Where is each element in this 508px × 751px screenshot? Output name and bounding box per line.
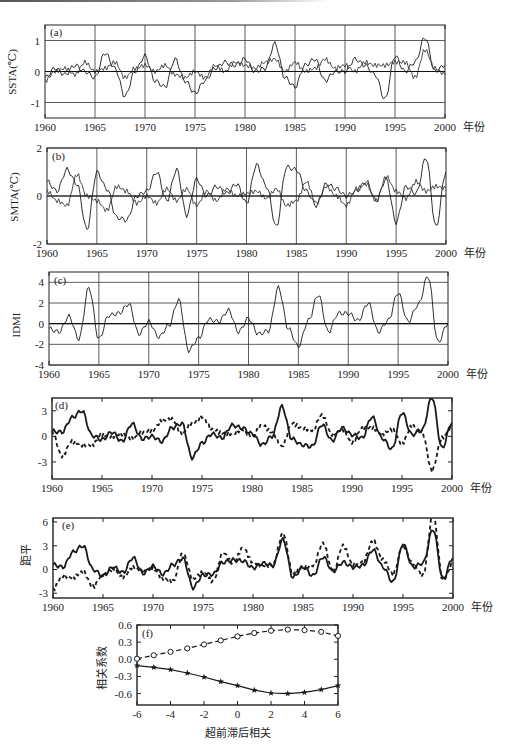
x-tick-label: 1995: [385, 247, 408, 259]
y-axis-title: IDMI: [10, 312, 22, 337]
y-tick-label: 2: [39, 297, 45, 309]
y-tick-label: -3: [39, 587, 49, 599]
x-tick-label: 1975: [191, 482, 214, 494]
x-tick-label: 1960: [34, 121, 57, 133]
circle-marker-icon: [134, 656, 139, 661]
x-tick-label: 1970: [134, 121, 157, 133]
x-tick-label: 1975: [186, 247, 209, 259]
x-tick-label: 1965: [92, 601, 115, 613]
panel-label: (b): [52, 150, 65, 163]
x-tick-label: 1990: [337, 368, 360, 380]
y-tick-label: 3: [43, 540, 49, 552]
x-tick-label: 1965: [88, 368, 111, 380]
chart-panel-a: 19601965197019751980198519901995200010-1…: [6, 25, 485, 134]
y-tick-label: 1: [35, 35, 41, 47]
x-tick-label: 1965: [84, 121, 107, 133]
chart-panel-c: 196019651970197519801985199019952000420-…: [10, 272, 488, 381]
x-tick-label: 2000: [441, 482, 464, 494]
circle-marker-icon: [185, 646, 190, 651]
circle-marker-icon: [201, 642, 206, 647]
x-tick-label: 1970: [138, 368, 161, 380]
x-tick-label: 1980: [238, 368, 261, 380]
circle-marker-icon: [252, 630, 257, 635]
y-tick-label: -1: [31, 97, 40, 109]
x-tick-label: 1990: [335, 247, 358, 259]
x-tick-label: 6: [335, 708, 341, 720]
y-tick-label: 6: [43, 516, 49, 528]
star-marker-icon: [234, 682, 240, 688]
y-tick-label: 0: [43, 563, 49, 575]
x-tick-label: 1970: [136, 247, 159, 259]
x-tick-label: 1985: [287, 368, 310, 380]
panel-label: (d): [55, 399, 68, 412]
chart-panel-e: 196019651970197519801985199019952000630-…: [20, 516, 493, 614]
circle-marker-icon: [168, 649, 173, 654]
chart-panel-f: -6-4-202460.60.30.0-0.3-0.6(f)超前滞后相关相关系数: [95, 619, 341, 740]
x-axis-unit-label: 年份: [471, 600, 493, 614]
x-tick-label: 1980: [242, 601, 265, 613]
x-tick-label: 1995: [391, 482, 414, 494]
y-tick-label: 0.0: [118, 653, 132, 665]
x-axis-unit-label: 年份: [463, 120, 485, 134]
y-tick-label: 0: [42, 430, 48, 442]
x-tick-label: -6: [132, 708, 142, 720]
chart-panel-d: 19601965197019751980198519901995200030-3…: [38, 398, 492, 495]
x-tick-label: 1995: [384, 121, 407, 133]
panel-label: (f): [142, 627, 153, 640]
y-tick-label: 0: [35, 66, 41, 78]
y-axis-title: SSTA(℃): [6, 49, 19, 95]
x-tick-label: 2000: [434, 121, 457, 133]
x-tick-label: 1980: [241, 482, 264, 494]
panel-label: (c): [54, 274, 67, 287]
x-tick-label: 1965: [91, 482, 114, 494]
x-tick-label: 2000: [442, 601, 465, 613]
series-line-dashed: [52, 414, 452, 473]
panel-label: (a): [50, 26, 63, 39]
series-group: [53, 516, 453, 590]
x-tick-label: 1990: [334, 121, 357, 133]
x-tick-label: 1995: [392, 601, 415, 613]
y-tick-label: 2: [37, 142, 43, 154]
circle-marker-icon: [218, 638, 223, 643]
x-axis-title: 超前滞后相关: [205, 726, 271, 740]
x-tick-label: 1985: [291, 482, 314, 494]
star-marker-icon: [218, 678, 225, 684]
x-tick-label: 1990: [341, 482, 364, 494]
x-tick-label: 1980: [234, 121, 257, 133]
circle-marker-icon: [319, 629, 324, 634]
y-tick-label: 0.3: [118, 636, 132, 648]
y-tick-label: 0: [37, 190, 43, 202]
x-tick-label: -4: [166, 708, 176, 720]
circle-marker-icon: [151, 653, 156, 658]
y-tick-label: -2: [35, 338, 44, 350]
y-tick-label: 4: [39, 276, 45, 288]
x-tick-label: 1985: [292, 601, 315, 613]
chart-panel-b: 19601965197019751980198519901995200020-2…: [8, 142, 486, 260]
series-line-solid: [137, 666, 338, 694]
x-tick-label: 1975: [188, 368, 211, 380]
x-tick-label: 2000: [435, 247, 458, 259]
x-tick-label: 1970: [142, 601, 165, 613]
y-tick-label: -0.3: [115, 670, 133, 682]
star-marker-icon: [151, 664, 158, 670]
x-tick-label: 1990: [342, 601, 365, 613]
y-tick-label: -0.6: [115, 688, 133, 700]
y-axis-title: SMTA(℃): [8, 172, 21, 222]
plot-frame: [52, 398, 452, 479]
y-tick-label: -4: [35, 359, 45, 371]
series-line-solid: [52, 398, 452, 459]
circle-marker-icon: [335, 633, 340, 638]
x-axis-unit-label: 年份: [464, 246, 486, 260]
star-marker-icon: [251, 687, 258, 693]
y-axis-title: 相关系数: [95, 646, 109, 690]
y-tick-label: -3: [38, 456, 48, 468]
circle-marker-icon: [302, 628, 307, 633]
star-marker-icon: [318, 686, 325, 692]
series-line-solid: [53, 530, 453, 589]
x-tick-label: 1975: [192, 601, 215, 613]
star-marker-icon: [167, 666, 173, 672]
x-tick-label: 2: [268, 708, 274, 720]
circle-marker-icon: [235, 634, 240, 639]
y-tick-label: 3: [42, 405, 48, 417]
y-axis-title: 距平: [20, 544, 33, 566]
